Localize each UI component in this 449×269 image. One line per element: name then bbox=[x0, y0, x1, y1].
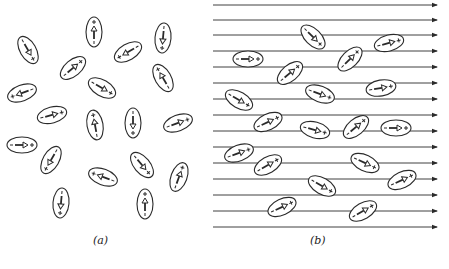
dipole bbox=[37, 143, 66, 177]
dipole bbox=[111, 38, 145, 67]
dipole bbox=[348, 149, 382, 176]
caption-b: (b) bbox=[310, 234, 326, 247]
caption-a: (a) bbox=[93, 234, 108, 247]
dipole bbox=[381, 120, 411, 136]
field-arrow-icon bbox=[432, 161, 438, 165]
arrow-icon bbox=[163, 31, 164, 39]
dipole bbox=[265, 193, 299, 220]
field-arrow-icon bbox=[432, 145, 438, 149]
field-arrow-icon bbox=[432, 49, 438, 53]
dipole bbox=[305, 172, 339, 201]
dipole bbox=[86, 17, 102, 47]
field-arrow-icon bbox=[432, 209, 438, 213]
dipole bbox=[125, 108, 141, 138]
dipole bbox=[149, 61, 178, 95]
dipole bbox=[297, 21, 330, 54]
dipole bbox=[339, 111, 372, 143]
field-arrow-icon bbox=[432, 81, 438, 85]
field-arrow-icon bbox=[432, 65, 438, 69]
dipole bbox=[233, 51, 263, 67]
dipole bbox=[334, 43, 367, 76]
panel-b-aligned-dipoles bbox=[213, 3, 438, 229]
dipole bbox=[85, 109, 106, 141]
minus-sign bbox=[369, 90, 372, 91]
dipole bbox=[222, 140, 256, 165]
dipole bbox=[7, 137, 37, 153]
field-arrow-icon bbox=[432, 193, 438, 197]
dipole bbox=[56, 52, 89, 84]
dipole bbox=[126, 148, 158, 181]
dipole bbox=[346, 197, 380, 226]
dipole bbox=[251, 108, 285, 135]
dipole bbox=[154, 22, 173, 53]
dipole bbox=[385, 166, 419, 193]
dipole bbox=[85, 74, 119, 103]
dipole bbox=[166, 160, 191, 194]
field-arrow-icon bbox=[432, 225, 438, 229]
dipole bbox=[298, 118, 331, 141]
field-arrow-icon bbox=[432, 177, 438, 181]
dipole bbox=[222, 86, 256, 115]
dipole bbox=[251, 151, 285, 180]
field-arrow-icon bbox=[432, 113, 438, 117]
dipole bbox=[86, 164, 120, 189]
dipole bbox=[273, 57, 306, 89]
dipole bbox=[303, 81, 337, 106]
dipole-figure bbox=[0, 0, 449, 269]
dipole bbox=[365, 78, 397, 99]
field-arrow-icon bbox=[432, 97, 438, 101]
field-arrow-icon bbox=[432, 33, 438, 37]
dipole bbox=[5, 80, 39, 105]
field-arrow-icon bbox=[432, 129, 438, 133]
field-arrow-icon bbox=[432, 3, 438, 7]
arrow-icon bbox=[61, 196, 62, 204]
dipole bbox=[14, 33, 43, 67]
field-arrow-icon bbox=[432, 18, 438, 22]
dipole bbox=[161, 110, 195, 135]
panel-a-random-dipoles bbox=[5, 17, 195, 219]
dipole bbox=[52, 187, 71, 218]
dipole bbox=[35, 103, 68, 126]
dipole bbox=[137, 189, 153, 219]
minus-sign bbox=[97, 134, 98, 137]
